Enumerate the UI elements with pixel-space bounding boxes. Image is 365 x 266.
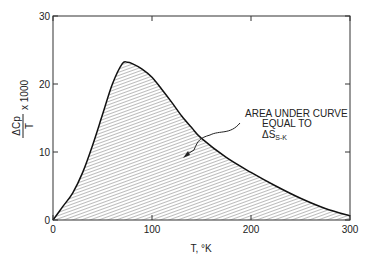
- y-tick-label: 0: [44, 215, 50, 226]
- x-tick-label: 0: [50, 224, 56, 235]
- y-tick-label: 10: [39, 147, 51, 158]
- annotation-line-2: EQUAL TO: [262, 118, 312, 129]
- x-tick-label: 100: [144, 224, 161, 235]
- shaded-area: [53, 62, 350, 220]
- y-axis-label: ΔCp T x 1000: [11, 80, 35, 138]
- y-tick-label: 30: [39, 11, 51, 22]
- y-tick-label: 20: [39, 79, 51, 90]
- y-label-multiplier: x 1000: [19, 80, 30, 110]
- y-label-numerator: ΔCp: [11, 116, 22, 136]
- annotation-line-3: ΔSS-K: [262, 129, 287, 141]
- x-axis-label: T, °K: [190, 243, 212, 254]
- x-tick-label: 300: [342, 224, 359, 235]
- y-label-denominator: T: [24, 123, 35, 129]
- chart: 01002003000102030 ΔCp T x 1000 T, °K ARE…: [0, 0, 365, 266]
- x-tick-label: 200: [243, 224, 260, 235]
